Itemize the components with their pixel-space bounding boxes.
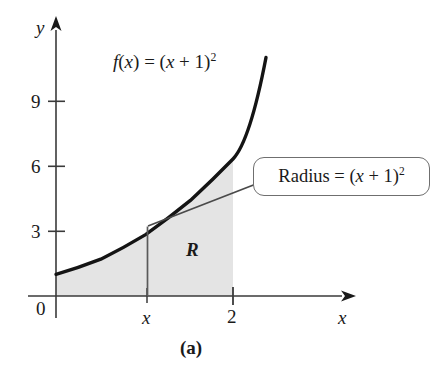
y-tick-label-3: 3 (31, 222, 41, 241)
y-axis-label: y (36, 18, 44, 37)
radius-callout-text: Radius = (x + 1)2 (278, 166, 404, 187)
callout-var: x (356, 166, 364, 186)
shaded-region-R (56, 159, 233, 296)
figure-caption: (a) (180, 338, 202, 357)
x-axis-arrowhead (341, 291, 356, 302)
function-label-exponent: 2 (210, 51, 216, 64)
y-tick-label-6: 6 (31, 157, 41, 176)
callout-const: 1 (384, 166, 393, 186)
callout-equals: = (330, 166, 350, 186)
region-label-R: R (186, 240, 199, 259)
function-label-body-plus: + (174, 51, 194, 72)
figure-container: y x 0 9 6 3 x 2 f(x) = (x + 1)2 R Radius… (0, 0, 443, 369)
function-label-arg: x (125, 51, 133, 72)
function-label: f(x) = (x + 1)2 (113, 52, 216, 71)
y-axis-arrowhead (51, 16, 62, 31)
callout-plus: + (364, 166, 384, 186)
x-axis-label: x (338, 308, 346, 327)
x-tick-label-x: x (142, 308, 150, 327)
y-tick-label-9: 9 (31, 92, 41, 111)
callout-word: Radius (278, 166, 329, 186)
origin-label: 0 (36, 299, 46, 318)
function-label-equals: = (139, 51, 159, 72)
radius-callout-box: Radius = (x + 1)2 (253, 157, 430, 196)
function-label-body-const: 1 (195, 51, 205, 72)
x-tick-label-2: 2 (227, 307, 237, 326)
callout-exponent: 2 (399, 165, 405, 177)
